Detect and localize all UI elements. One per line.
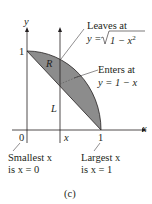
leaves-label: Leaves at [87, 20, 127, 31]
x-marker-label: x [64, 132, 69, 143]
smallest-x-value: is x = 0 [8, 164, 39, 175]
x-tick-1: 1 [98, 132, 103, 143]
y-axis-label: y [24, 16, 29, 27]
leaves-radicand-text: 1 − x [110, 35, 132, 46]
y-axis-arrow-icon [25, 27, 29, 32]
enters-equation: y = 1 − x [98, 77, 137, 88]
region-label: R [46, 58, 52, 69]
leaves-radicand: 1 − x2 [110, 33, 136, 46]
largest-x-value: is x = 1 [81, 164, 112, 175]
leader-leaves [61, 29, 84, 59]
leader-smallest [13, 143, 20, 151]
smallest-x-label: Smallest x [8, 152, 52, 163]
leader-largest [94, 143, 100, 151]
line-label: L [51, 103, 57, 114]
enters-label: Enters at [98, 64, 135, 75]
leaves-eq-prefix: y = [87, 33, 101, 44]
y-tick-1: 1 [19, 46, 24, 57]
largest-x-label: Largest x [81, 152, 120, 163]
x-axis-label: x [142, 123, 147, 134]
line-l-arrow-icon [58, 27, 62, 32]
figure-caption: (c) [64, 188, 76, 199]
region-r [27, 51, 101, 130]
leaves-exponent: 2 [132, 34, 136, 42]
origin-label: 0 [19, 132, 24, 143]
